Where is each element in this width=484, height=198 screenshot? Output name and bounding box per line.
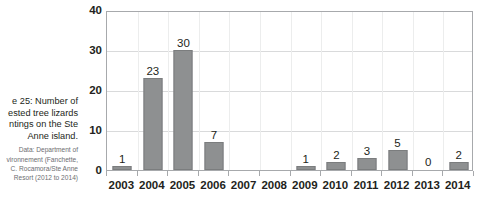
bar-value-label: 23 — [146, 65, 159, 77]
bar-slot: 3 — [352, 12, 383, 170]
bar-value-label: 1 — [119, 153, 125, 165]
caption-title-line: Anne island. — [0, 131, 78, 143]
caption-source-line: vironnement (Fanchette, — [0, 155, 78, 164]
bar-slot: 2 — [321, 12, 352, 170]
bar[interactable] — [296, 166, 315, 170]
x-axis-tick — [198, 171, 199, 176]
bar[interactable] — [113, 166, 132, 170]
x-axis-tick-label: 2011 — [353, 179, 378, 192]
x-axis-tick-label: 2003 — [108, 179, 134, 192]
bar-value-label: 30 — [177, 37, 190, 49]
x-axis-tick — [320, 171, 321, 176]
bar-value-label: 7 — [211, 129, 217, 141]
plot-area: 123307123502 — [106, 11, 473, 171]
x-axis-tick-label: 2013 — [414, 179, 440, 192]
x-axis-tick-label: 2006 — [200, 179, 226, 192]
x-axis-tick — [259, 171, 260, 176]
figure-caption: e 25: Number of ested tree lizards nting… — [0, 96, 78, 182]
x-axis-tick — [412, 171, 413, 176]
caption-title-line: ested tree lizards — [0, 108, 78, 120]
x-axis-tick — [473, 171, 474, 176]
bar-slot — [260, 12, 291, 170]
x-axis-tick-label: 2004 — [139, 179, 165, 192]
bar-slot — [229, 12, 260, 170]
bar-slot: 30 — [168, 12, 199, 170]
bar-value-label: 1 — [303, 153, 309, 165]
bar-value-label: 5 — [394, 137, 400, 149]
bar[interactable] — [174, 50, 193, 170]
bar-slot: 0 — [413, 12, 444, 170]
y-axis-tick-label: 30 — [76, 45, 102, 56]
y-axis-tick-label: 40 — [76, 5, 102, 16]
x-axis-tick — [442, 171, 443, 176]
x-axis-tick — [167, 171, 168, 176]
bar[interactable] — [205, 142, 224, 170]
bar-value-label: 2 — [333, 149, 339, 161]
bar-slot: 1 — [291, 12, 322, 170]
x-axis-tick — [228, 171, 229, 176]
bar-slot: 5 — [382, 12, 413, 170]
x-axis-tick-label: 2012 — [384, 179, 410, 192]
bar-slot: 1 — [107, 12, 138, 170]
x-axis-tick — [351, 171, 352, 176]
bar-value-label: 0 — [425, 156, 431, 168]
caption-source-line: C. Rocamora/Ste Anne — [0, 164, 78, 173]
caption-source: Data: Department of vironnement (Fanchet… — [0, 145, 78, 182]
bar-value-label: 2 — [455, 149, 461, 161]
caption-title-line: e 25: Number of — [0, 96, 78, 108]
bar-slot: 2 — [443, 12, 474, 170]
y-axis-tick-label: 20 — [76, 85, 102, 96]
x-axis-tick — [106, 171, 107, 176]
x-axis-tick — [381, 171, 382, 176]
caption-source-line: Resort (2012 to 2014) — [0, 173, 78, 182]
bar[interactable] — [449, 162, 468, 170]
x-axis: 2003200420052006200720082009201020112012… — [106, 171, 473, 198]
bar[interactable] — [327, 162, 346, 170]
bar-value-label: 3 — [364, 145, 370, 157]
y-axis-tick-label: 10 — [76, 125, 102, 136]
bar-slot: 7 — [199, 12, 230, 170]
bar[interactable] — [388, 150, 407, 170]
caption-title: e 25: Number of ested tree lizards nting… — [0, 96, 78, 142]
figure-container: e 25: Number of ested tree lizards nting… — [0, 0, 484, 198]
x-axis-tick-label: 2008 — [261, 179, 287, 192]
x-axis-tick — [290, 171, 291, 176]
y-axis-tick-label: 0 — [76, 165, 102, 176]
caption-title-line: ntings on the Ste — [0, 119, 78, 131]
x-axis-tick-label: 2007 — [231, 179, 257, 192]
bar[interactable] — [143, 78, 162, 170]
x-axis-tick-label: 2010 — [323, 179, 349, 192]
bar-slot: 23 — [138, 12, 169, 170]
y-axis: 010203040 — [74, 0, 102, 198]
x-axis-tick-label: 2009 — [292, 179, 318, 192]
x-axis-tick-label: 2005 — [170, 179, 196, 192]
x-axis-tick — [137, 171, 138, 176]
x-axis-tick-label: 2014 — [445, 179, 471, 192]
bar[interactable] — [357, 158, 376, 170]
caption-source-line: Data: Department of — [0, 145, 78, 154]
